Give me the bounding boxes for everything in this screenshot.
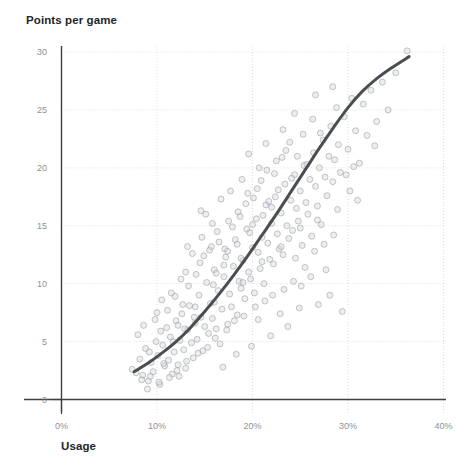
scatter-point — [334, 207, 340, 213]
scatter-point — [225, 248, 231, 254]
scatter-point — [190, 355, 196, 361]
scatter-point — [210, 282, 216, 288]
scatter-point — [186, 283, 192, 289]
scatter-point — [297, 225, 303, 231]
y-tick-label: 30 — [37, 47, 47, 57]
scatter-point — [269, 204, 275, 210]
scatter-point — [332, 157, 338, 163]
scatter-chart: Points per game 051015202530 0%10%20%30%… — [0, 0, 471, 470]
scatter-point — [296, 305, 302, 311]
scatter-point — [334, 105, 340, 111]
scatter-point — [160, 342, 166, 348]
scatter-point — [219, 306, 225, 312]
scatter-point — [255, 317, 261, 323]
scatter-point — [245, 190, 251, 196]
scatter-point — [178, 276, 184, 282]
x-tick-label: 0% — [55, 421, 68, 431]
scatter-point — [180, 302, 186, 308]
scatter-point — [171, 349, 177, 355]
scatter-point — [146, 349, 152, 355]
scatter-point — [227, 291, 233, 297]
scatter-point — [286, 235, 292, 241]
scatter-point — [164, 325, 170, 331]
scatter-point — [176, 373, 182, 379]
scatter-point — [239, 176, 245, 182]
y-tick-label: 15 — [37, 221, 47, 231]
scatter-point — [202, 324, 208, 330]
scatter-point — [315, 302, 321, 308]
scatter-point — [196, 292, 202, 298]
scatter-point — [292, 255, 298, 261]
x-tick-label: 20% — [243, 421, 261, 431]
scatter-point — [193, 271, 199, 277]
scatter-point — [161, 361, 167, 367]
scatter-point — [282, 181, 288, 187]
scatter-point — [213, 326, 219, 332]
scatter-point — [153, 339, 159, 345]
scatter-point — [277, 311, 283, 317]
x-axis-title: Usage — [61, 440, 96, 452]
scatter-point — [231, 318, 237, 324]
scatter-point — [208, 244, 214, 250]
scatter-point — [321, 241, 327, 247]
scatter-point — [233, 351, 239, 357]
scatter-point — [280, 252, 286, 258]
scatter-point — [188, 340, 194, 346]
scatter-point — [294, 153, 300, 159]
scatter-point — [201, 253, 207, 259]
scatter-point — [226, 218, 232, 224]
scatter-point — [217, 341, 223, 347]
scatter-point — [323, 267, 329, 273]
scatter-point — [224, 327, 230, 333]
scatter-point — [183, 269, 189, 275]
scatter-point — [309, 233, 315, 239]
y-tick-label: 20 — [37, 163, 47, 173]
scatter-point — [326, 153, 332, 159]
scatter-point — [355, 197, 361, 203]
scatter-point — [252, 304, 258, 310]
scatter-point — [189, 251, 195, 257]
scatter-point — [258, 178, 264, 184]
scatter-point — [247, 230, 253, 236]
scatter-point — [285, 324, 291, 330]
scatter-point — [262, 298, 268, 304]
scatter-point — [281, 286, 287, 292]
scatter-point — [230, 263, 236, 269]
scatter-point — [192, 304, 198, 310]
scatter-point — [288, 197, 294, 203]
scatter-point — [345, 146, 351, 152]
scatter-point — [197, 260, 203, 266]
scatter-point — [195, 350, 201, 356]
scatter-point — [228, 188, 234, 194]
scatter-point — [186, 303, 192, 309]
scatter-point — [368, 87, 374, 93]
scatter-point — [228, 304, 234, 310]
scatter-point — [266, 198, 272, 204]
scatter-point — [166, 374, 172, 380]
scatter-point — [251, 290, 257, 296]
scatter-point — [271, 171, 277, 177]
scatter-point — [310, 116, 316, 122]
scatter-point — [158, 328, 164, 334]
scatter-point — [156, 379, 162, 385]
scatter-point — [327, 292, 333, 298]
scatter-point — [147, 373, 153, 379]
scatter-point — [314, 217, 320, 223]
scatter-point — [302, 264, 308, 270]
scatter-point — [353, 128, 359, 134]
scatter-point — [221, 274, 227, 280]
scatter-point — [372, 143, 378, 149]
scatter-point — [404, 48, 410, 54]
scatter-point — [259, 259, 265, 265]
x-tick-labels: 0%10%20%30%40% — [55, 400, 453, 432]
scatter-point — [299, 242, 305, 248]
scatter-point — [335, 142, 341, 148]
scatter-point — [278, 244, 284, 250]
scatter-point — [234, 241, 240, 247]
scatter-point — [209, 315, 215, 321]
scatter-point — [347, 188, 353, 194]
scatter-point — [271, 261, 277, 267]
scatter-point — [272, 194, 278, 200]
scatter-point — [246, 151, 252, 157]
y-tick-label: 5 — [42, 337, 47, 347]
